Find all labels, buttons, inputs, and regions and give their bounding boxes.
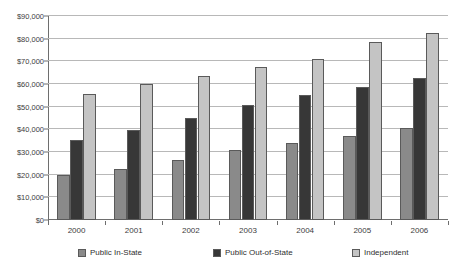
bar [426,33,439,220]
legend-item: Independent [352,248,409,257]
y-axis-tick-label: $80,000 [0,34,44,43]
y-axis-tick-label: $70,000 [0,57,44,66]
bar [198,76,211,220]
gridline [48,83,448,84]
chart-screenshot: $0$10,000$20,000$30,000$40,000$50,000$60… [0,0,455,274]
bar [242,105,255,220]
bar [140,84,153,220]
bar [229,150,242,220]
x-axis-tick-mark [162,221,163,225]
bar [312,59,325,220]
bar [356,87,369,220]
bar [185,118,198,220]
bar [343,136,356,220]
x-axis-tick-label: 2002 [182,226,200,235]
y-axis-tick-label: $10,000 [0,193,44,202]
bar [255,67,268,220]
bar [286,143,299,220]
x-axis-tick-mark [277,221,278,225]
legend-item: Public In-State [78,248,142,257]
bar [57,175,70,220]
bar [70,140,83,220]
x-axis-tick-mark [105,221,106,225]
x-axis-tick-mark [219,221,220,225]
legend-label: Public Out-of-State [225,248,293,257]
y-axis-tick-label: $40,000 [0,125,44,134]
legend-swatch-icon [352,249,360,257]
x-axis-tick-mark [334,221,335,225]
bar [127,130,140,220]
legend-label: Public In-State [90,248,142,257]
x-axis-tick-label: 2004 [296,226,314,235]
x-axis-tick-mark [391,221,392,225]
gridline [48,38,448,39]
legend-swatch-icon [78,249,86,257]
legend-label: Independent [364,248,409,257]
bar [83,94,96,220]
x-axis-tick-label: 2003 [239,226,257,235]
gridline [48,15,448,16]
legend-item: Public Out-of-State [213,248,293,257]
y-axis-tick-label: $0 [0,216,44,225]
chart-legend: Public In-StatePublic Out-of-StateIndepe… [0,248,455,264]
bar [413,78,426,220]
y-axis-tick-label: $90,000 [0,12,44,21]
bar [172,160,185,220]
bar [400,128,413,220]
x-axis-tick-label: 2006 [411,226,429,235]
gridline [48,60,448,61]
y-axis-tick-label: $50,000 [0,102,44,111]
x-axis-tick-mark [48,221,49,225]
bar-chart: $0$10,000$20,000$30,000$40,000$50,000$60… [0,0,455,240]
x-axis-tick-label: 2000 [68,226,86,235]
bar [369,42,382,220]
bar [299,95,312,220]
bar [114,169,127,220]
y-axis-tick-label: $30,000 [0,148,44,157]
x-axis-tick-label: 2005 [353,226,371,235]
x-axis-tick-label: 2001 [125,226,143,235]
y-axis-tick-label: $60,000 [0,80,44,89]
y-axis-tick-label: $20,000 [0,170,44,179]
legend-swatch-icon [213,249,221,257]
plot-area [48,16,448,220]
x-axis-tick-mark [448,221,449,225]
